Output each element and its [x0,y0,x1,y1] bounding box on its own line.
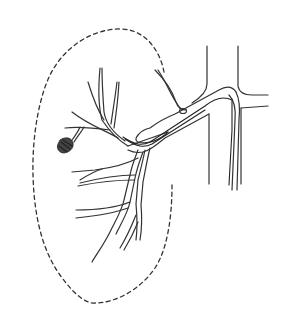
segmental-branches [65,68,128,146]
embolization-coil [57,138,73,153]
lower-branches [72,148,150,262]
renal-artery [128,70,236,152]
kidney-arterial-diagram [0,0,292,332]
